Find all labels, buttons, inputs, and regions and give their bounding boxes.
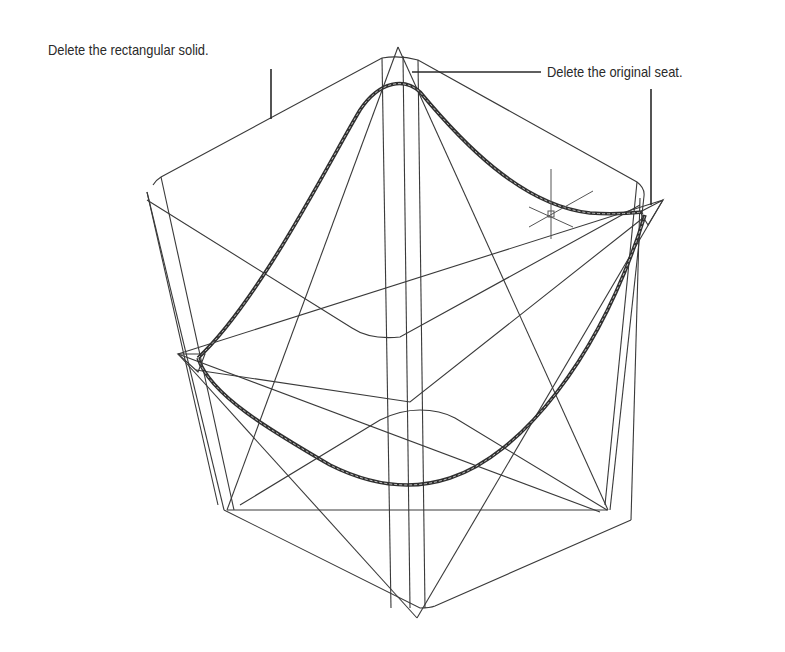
star-lines — [178, 47, 663, 618]
star-line — [398, 47, 608, 510]
star-line — [417, 200, 663, 618]
box-outline-bottom — [224, 510, 631, 608]
star-frame — [178, 47, 663, 618]
star-line — [227, 47, 398, 510]
crosshair-cursor-icon — [529, 169, 593, 239]
box-vertical-edge — [418, 60, 425, 608]
callout-delete-rectangular-solid: Delete the rectangular solid. — [48, 41, 209, 58]
wireframe-drawing — [0, 0, 785, 652]
callout-delete-original-seat: Delete the original seat. — [547, 63, 683, 80]
box-vertical-edge — [605, 182, 637, 505]
box-vertical-edge — [147, 192, 224, 510]
box-vertical-edge — [382, 58, 391, 608]
middle-v-edge — [196, 218, 643, 402]
diagram-canvas: Delete the rectangular solid. Delete the… — [0, 0, 785, 652]
inner-top-edge — [147, 200, 640, 338]
box-vertical-edge — [161, 177, 234, 510]
